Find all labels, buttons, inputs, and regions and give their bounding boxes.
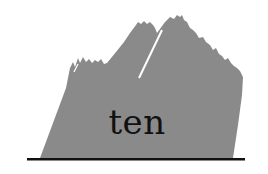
baseline [27,158,245,161]
mountain-icon [0,0,268,174]
ten-logo: ten [0,0,268,174]
logo-wordmark: ten [100,100,174,144]
